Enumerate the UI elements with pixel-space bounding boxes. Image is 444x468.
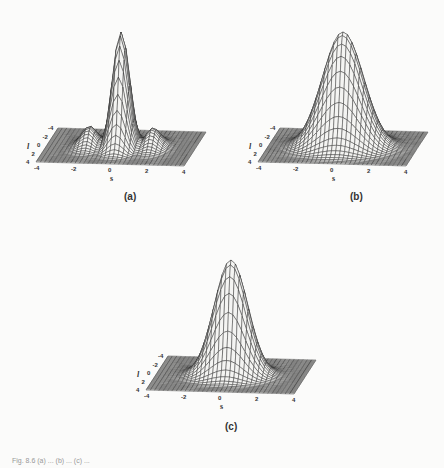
- surface-mesh: [36, 32, 206, 166]
- s-tick: -4: [144, 393, 150, 399]
- s-tick: 4: [292, 397, 296, 403]
- l-tick: 4: [248, 159, 252, 165]
- l-tick: 0: [37, 142, 41, 148]
- panel-label-c: (c): [225, 421, 237, 432]
- l-tick: 4: [26, 159, 30, 165]
- l-tick: 0: [259, 142, 263, 148]
- s-tick: -4: [34, 165, 40, 171]
- s-tick: -2: [293, 166, 299, 172]
- surface-svg-a: -4-2024-4-2024sl: [18, 10, 208, 185]
- l-tick: 2: [254, 151, 258, 157]
- s-tick: -2: [71, 166, 77, 172]
- l-axis-label: l: [137, 370, 140, 379]
- s-axis-label: s: [110, 174, 113, 183]
- s-tick: 0: [108, 167, 112, 173]
- surface-svg-c: -4-2024-4-2024sl: [128, 238, 318, 413]
- l-tick: -4: [158, 353, 164, 359]
- s-tick: -4: [256, 165, 262, 171]
- s-tick: 2: [367, 168, 371, 174]
- s-axis-label: s: [220, 402, 223, 411]
- s-tick: 0: [330, 167, 334, 173]
- surface-plot-b: -4-2024-4-2024sl (b): [240, 10, 430, 185]
- figure-caption: Fig. 8.6 (a) ... (b) ... (c) ...: [12, 457, 90, 464]
- panel-label-b: (b): [350, 191, 363, 202]
- l-tick: -4: [270, 125, 276, 131]
- surface-mesh: [258, 32, 428, 166]
- l-tick: -4: [48, 125, 54, 131]
- l-axis-label: l: [27, 142, 30, 151]
- l-tick: 0: [147, 370, 151, 376]
- s-tick: 4: [404, 169, 408, 175]
- s-axis-label: s: [332, 174, 335, 183]
- s-tick: 2: [255, 396, 259, 402]
- surface-plot-c: -4-2024-4-2024sl (c): [128, 238, 318, 413]
- l-tick: -2: [43, 134, 49, 140]
- s-tick: -2: [181, 394, 187, 400]
- l-axis-label: l: [249, 142, 252, 151]
- s-tick: 4: [182, 169, 186, 175]
- l-tick: -2: [265, 134, 271, 140]
- l-tick: 2: [142, 379, 146, 385]
- panel-label-a: (a): [124, 191, 136, 202]
- l-tick: 2: [32, 151, 36, 157]
- s-tick: 0: [218, 395, 222, 401]
- surface-mesh: [146, 260, 316, 394]
- surface-plot-a: -4-2024-4-2024sl (a): [18, 10, 208, 185]
- l-tick: -2: [153, 362, 159, 368]
- l-tick: 4: [136, 387, 140, 393]
- s-tick: 2: [145, 168, 149, 174]
- surface-svg-b: -4-2024-4-2024sl: [240, 10, 430, 185]
